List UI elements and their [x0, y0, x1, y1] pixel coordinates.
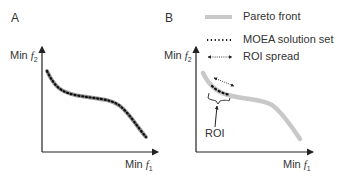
legend-roi-label: ROI spread [243, 50, 299, 62]
diagram-canvas [0, 0, 339, 177]
panel-b-y-axis-label: Min f2 [164, 49, 192, 63]
panel-a-label: A [11, 11, 19, 25]
legend-pareto-label: Pareto front [243, 10, 300, 22]
panel-a-x-axis-label: Min f1 [125, 158, 153, 172]
panel-b-roi-spread-arrow [214, 78, 234, 86]
panel-b-x-axis-label: Min f1 [283, 158, 311, 172]
panel-a-y-axis-label: Min f2 [10, 49, 38, 63]
panel-b-roi-label: ROI [205, 127, 225, 139]
panel-b-label: B [165, 11, 173, 25]
panel-b-roi-pointer [215, 106, 217, 127]
panel-a-pareto-curve [47, 71, 146, 137]
legend-moea-label: MOEA solution set [243, 33, 334, 45]
